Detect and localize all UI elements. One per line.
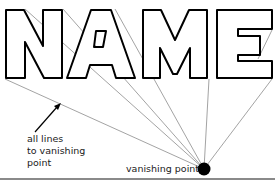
perspective-line-e-bottom [204, 79, 272, 169]
bottom-divider [0, 178, 275, 180]
perspective-line-m-bottom [204, 79, 209, 169]
label-all-lines-2: to vanishing [27, 145, 97, 157]
arrow-icon [35, 103, 61, 132]
label-all-lines-3: point [27, 157, 97, 169]
letter-e [217, 10, 272, 78]
letter-m [143, 10, 207, 78]
letters-outline [6, 10, 272, 78]
label-vanishing-point: vanishing point [126, 163, 199, 175]
label-all-lines: all lines to vanishing point [27, 133, 97, 169]
vanishing-point-dot [198, 163, 211, 176]
letter-n [6, 10, 62, 78]
letter-a [67, 10, 135, 78]
label-all-lines-1: all lines [27, 133, 97, 145]
